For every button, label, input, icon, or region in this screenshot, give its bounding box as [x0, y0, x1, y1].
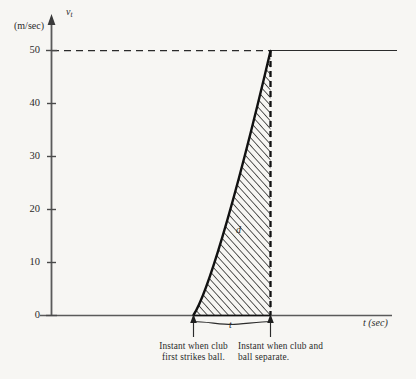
interval-label-t: t [229, 319, 232, 331]
interval-brace [194, 319, 271, 325]
velocity-time-figure: vt (m/sec) 50 40 30 20 10 0 t (sec) d t … [0, 0, 416, 379]
plot-canvas [0, 0, 416, 379]
y-tick-label-0: 0 [14, 309, 40, 321]
y-axis-name: vt [66, 6, 73, 20]
y-tick-label-50: 50 [14, 44, 40, 56]
y-axis-arrow-icon [48, 14, 56, 25]
shaded-distance-region [194, 51, 271, 315]
y-axis-unit-label: (m/sec) [14, 20, 44, 32]
right-caption-line-1: Instant when club and [238, 341, 374, 352]
y-tick-label-10: 10 [14, 256, 40, 268]
region-label-d: d [236, 224, 241, 236]
y-axis-subscript: t [70, 10, 72, 19]
y-tick-label-20: 20 [14, 203, 40, 215]
x-axis-label: t (sec) [363, 317, 388, 329]
y-tick-label-30: 30 [14, 150, 40, 162]
y-tick-label-40: 40 [14, 97, 40, 109]
right-caption-line-2: ball separate. [238, 352, 374, 363]
right-caption: Instant when club and ball separate. [238, 341, 374, 362]
